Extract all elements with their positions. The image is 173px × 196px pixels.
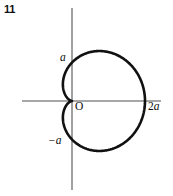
- y-axis-label-a: a: [60, 51, 66, 63]
- x-axis-label-2a: 2a: [148, 100, 160, 112]
- y-axis-label-negative-a: −a: [48, 134, 62, 146]
- cardioid-figure: 11 a −a O 2a: [0, 0, 173, 196]
- x-axis-label-2a-symbol: a: [154, 100, 160, 112]
- plot-canvas: [0, 0, 173, 196]
- axes-group: [22, 8, 161, 190]
- origin-label: O: [75, 100, 83, 112]
